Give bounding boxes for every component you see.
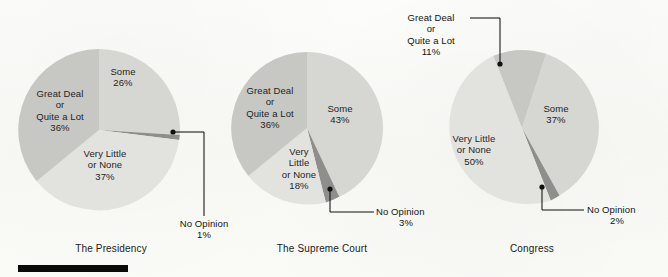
pie-panel-presidency: Some 26% Great Deal or Quite a Lot 36% V… (0, 0, 222, 277)
callout-great-deal-congress: Great Deal or Quite a Lot 11% (392, 12, 470, 58)
leader-line-no-opinion-presidency (170, 128, 220, 220)
callout-great-deal-line3: Quite a Lot (392, 35, 470, 46)
pie-slice-some[interactable] (99, 49, 180, 135)
callout-great-deal-line2: or (392, 23, 470, 34)
chart-title-supreme-court: The Supreme Court (252, 243, 392, 255)
chart-title-congress: Congress (482, 243, 582, 255)
rule-bar (18, 265, 128, 272)
pie-svg-supreme-court (230, 51, 384, 205)
callout-no-opinion-congress-value: 2% (587, 215, 647, 226)
callout-no-opinion-congress-text: No Opinion (587, 204, 663, 215)
chart-title-presidency: The Presidency (46, 243, 176, 255)
callout-great-deal-value: 11% (392, 46, 470, 57)
pie-chart-presidency (16, 47, 182, 213)
callout-great-deal-line1: Great Deal (392, 12, 470, 23)
pie-svg-presidency (16, 47, 182, 213)
callout-no-opinion-congress: No Opinion 2% (587, 204, 663, 227)
leader-line-great-deal-congress (469, 14, 513, 72)
pie-panel-congress: Some 37% Very Little or None 50% Great D… (422, 0, 668, 277)
pie-chart-supreme-court (230, 51, 384, 205)
